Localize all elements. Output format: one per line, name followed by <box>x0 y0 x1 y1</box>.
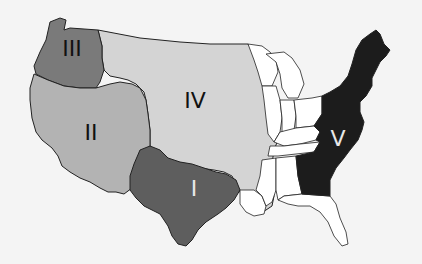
label-region-ii: II <box>85 120 98 145</box>
label-region-v: V <box>330 126 345 151</box>
label-region-i: I <box>191 176 198 201</box>
label-region-iii: III <box>62 36 81 61</box>
state-florida <box>278 194 348 246</box>
us-territorial-map: III II IV I V <box>0 0 422 264</box>
label-region-iv: IV <box>184 88 206 113</box>
state-indiana <box>280 100 296 132</box>
